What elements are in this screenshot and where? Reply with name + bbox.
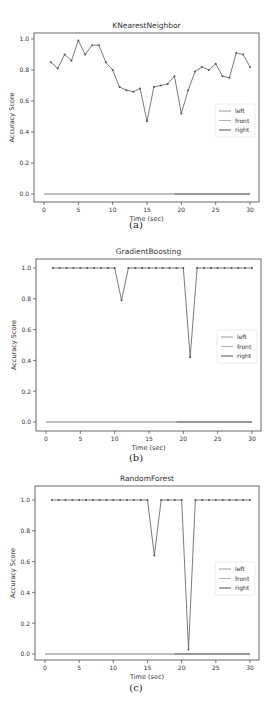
x-tick-label: 25	[212, 664, 220, 671]
y-tick-label: 0.4	[21, 357, 31, 364]
y-tick-label: 0.2	[19, 159, 29, 166]
data-point	[127, 267, 129, 269]
data-point	[249, 499, 251, 501]
data-point	[72, 267, 74, 269]
data-point	[77, 40, 79, 42]
x-tick-label: 10	[110, 664, 118, 671]
data-point	[146, 120, 148, 122]
data-point	[59, 267, 61, 269]
data-point	[180, 112, 182, 114]
x-tick-label: 30	[246, 664, 254, 671]
y-tick-label: 0.4	[19, 128, 29, 135]
data-point	[155, 267, 157, 269]
x-tick-label: 0	[44, 435, 48, 442]
x-tick-label: 5	[78, 435, 82, 442]
data-point	[114, 267, 116, 269]
data-point	[229, 499, 231, 501]
data-point	[201, 499, 203, 501]
data-point	[92, 499, 94, 501]
y-tick-label: 0.8	[20, 527, 30, 534]
data-point	[57, 67, 59, 69]
y-tick-label: 0.0	[20, 650, 30, 657]
data-point	[79, 267, 81, 269]
data-point	[112, 69, 114, 71]
data-point	[187, 89, 189, 91]
data-point	[140, 499, 142, 501]
data-point	[64, 54, 66, 56]
legend-label-right: right	[235, 126, 250, 134]
y-tick-label: 0.0	[19, 190, 29, 197]
data-point	[91, 44, 93, 46]
x-tick-label: 15	[144, 664, 152, 671]
data-point	[121, 299, 123, 301]
data-point	[70, 60, 72, 62]
data-point	[99, 499, 101, 501]
caption-a: (a)	[0, 219, 272, 230]
data-point	[249, 66, 251, 68]
data-point	[167, 499, 169, 501]
data-point	[126, 499, 128, 501]
data-point	[112, 499, 114, 501]
legend-label-left: left	[237, 333, 247, 340]
data-point	[189, 356, 191, 358]
data-point	[160, 499, 162, 501]
legend-label-left: left	[235, 565, 245, 572]
data-point	[107, 267, 109, 269]
x-axis-label: Time (sec)	[130, 444, 165, 452]
data-point	[119, 499, 121, 501]
data-point	[160, 85, 162, 87]
chart-panel-knn: KNearestNeighbor0.00.20.40.60.81.0051015…	[0, 0, 272, 236]
x-tick-label: 15	[145, 435, 153, 442]
legend-label-right: right	[235, 584, 250, 592]
x-tick-label: 30	[246, 206, 254, 213]
y-tick-label: 0.6	[19, 97, 29, 104]
x-tick-label: 30	[248, 435, 256, 442]
caption-b: (b)	[0, 452, 272, 463]
y-tick-label: 0.2	[20, 620, 30, 627]
y-tick-label: 0.8	[19, 66, 29, 73]
legend-label-front: front	[235, 575, 250, 582]
chart-title: KNearestNeighbor	[112, 21, 181, 30]
data-point	[50, 61, 52, 63]
data-point	[58, 499, 60, 501]
data-point	[52, 267, 54, 269]
data-point	[235, 499, 237, 501]
y-axis-label: Accuracy Score	[10, 320, 18, 370]
data-point	[194, 499, 196, 501]
y-axis-label: Accuracy Score	[9, 548, 17, 598]
y-tick-label: 0.6	[20, 558, 30, 565]
data-point	[86, 267, 88, 269]
chart-panel-random-forest: RandomForest0.00.20.40.60.81.00510152025…	[0, 474, 272, 714]
data-point	[222, 75, 224, 77]
y-tick-label: 0.0	[21, 418, 31, 425]
data-point	[133, 499, 135, 501]
data-point	[203, 267, 205, 269]
data-point	[98, 44, 100, 46]
data-point	[125, 89, 127, 91]
data-point	[201, 66, 203, 68]
x-tick-label: 20	[178, 664, 186, 671]
data-point	[208, 499, 210, 501]
data-point	[174, 499, 176, 501]
data-point	[153, 86, 155, 88]
data-point	[100, 267, 102, 269]
data-point	[237, 267, 239, 269]
data-point	[169, 267, 171, 269]
y-tick-label: 1.0	[21, 264, 31, 271]
chart-title: GradientBoosting	[116, 247, 182, 256]
legend: leftfrontright	[215, 562, 255, 595]
data-point	[78, 499, 80, 501]
x-tick-label: 0	[42, 206, 46, 213]
data-point	[210, 267, 212, 269]
y-tick-label: 0.4	[20, 589, 30, 596]
legend-label-front: front	[237, 343, 252, 350]
x-tick-label: 10	[109, 206, 117, 213]
y-tick-label: 0.2	[21, 388, 31, 395]
data-point	[147, 499, 149, 501]
data-point	[222, 499, 224, 501]
data-point	[167, 83, 169, 85]
data-point	[194, 71, 196, 73]
legend: leftfrontright	[217, 330, 257, 363]
data-point	[215, 499, 217, 501]
data-point	[251, 267, 253, 269]
